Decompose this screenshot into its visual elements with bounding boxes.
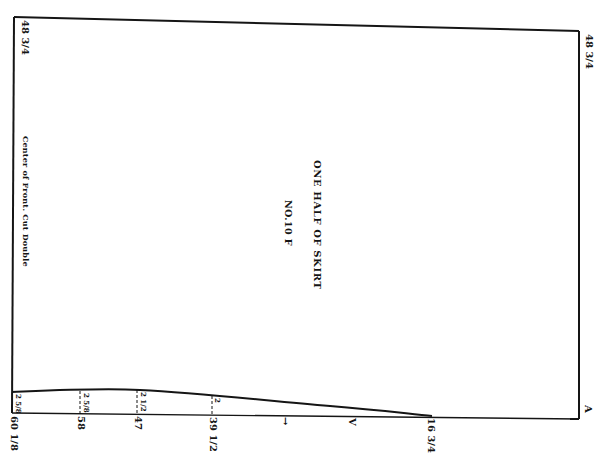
pattern-number: NO.10 F (284, 200, 294, 246)
seam-label: 2 1/2 (140, 392, 147, 412)
left-edge (12, 17, 14, 413)
seam-label: 2 5/8 (83, 393, 90, 413)
grain-arrow-icon: → (280, 417, 290, 425)
seam-label: 2 (214, 398, 221, 403)
corner-marker-a: A (583, 405, 593, 413)
bottom-baseline (12, 413, 579, 419)
hem-curve (12, 389, 432, 416)
measurement-label: 16 3/4 (426, 418, 436, 453)
measurement-label: 60 1/8 (9, 416, 19, 451)
measurement-label: 39 1/2 (208, 417, 218, 452)
pattern-title: ONE HALF OF SKIRT (312, 160, 322, 289)
measurement-label: 58 (76, 416, 86, 430)
top-edge (14, 17, 579, 31)
measurement-label: 47 (133, 416, 143, 430)
corner-label-top-left: 48 3/4 (20, 20, 30, 55)
seam-label: 2 5/8 (15, 394, 22, 414)
center-front-label: Center of Front. Cut Double (22, 136, 30, 267)
corner-label-top-right: 48 3/4 (584, 34, 594, 69)
grain-notch-icon: V (347, 418, 357, 426)
